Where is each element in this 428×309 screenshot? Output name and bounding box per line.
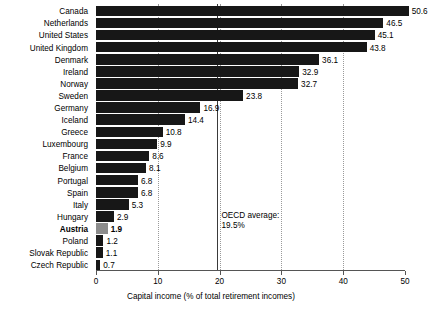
bar-value-label: 8.1: [149, 164, 160, 173]
x-tick-label-40: 40: [339, 277, 348, 286]
bar-sweden: [96, 90, 243, 101]
x-tick-label-0: 0: [94, 277, 99, 286]
x-tick-label-50: 50: [400, 277, 409, 286]
category-label-luxembourg: Luxembourg: [42, 140, 88, 149]
bar-value-label: 16.9: [203, 104, 219, 113]
bar-greece: [96, 127, 163, 138]
bar-portugal: [96, 175, 138, 186]
bar-value-label: 1.2: [106, 237, 117, 246]
category-label-norway: Norway: [60, 79, 88, 88]
bar-value-label: 50.6: [412, 7, 428, 16]
category-label-row: Czech Republic: [0, 258, 92, 273]
x-tick-label-30: 30: [277, 277, 286, 286]
bar-value-label: 46.5: [386, 19, 402, 28]
bar-hungary: [96, 211, 114, 222]
oecd-average-annotation-line1: OECD average:: [222, 211, 280, 221]
bar-value-label: 8.6: [152, 152, 163, 161]
bar-value-label: 1.9: [111, 224, 122, 233]
bar-norway: [96, 78, 298, 89]
oecd-average-annotation: OECD average:19.5%: [222, 211, 280, 231]
x-tick-40: [343, 271, 344, 275]
plot-area: 50.646.545.143.836.132.932.723.816.914.4…: [96, 4, 405, 270]
bar-value-label: 32.7: [301, 79, 317, 88]
category-label-czech-republic: Czech Republic: [31, 261, 88, 270]
bar-value-label: 23.8: [246, 91, 262, 100]
bar-poland: [96, 235, 103, 246]
bar-value-label: 36.1: [322, 55, 338, 64]
category-label-netherlands: Netherlands: [44, 19, 88, 28]
bar-value-label: 1.1: [106, 249, 117, 258]
bar-austria: [96, 223, 108, 234]
category-label-united-kingdom: United Kingdom: [30, 43, 88, 52]
bar-value-label: 43.8: [370, 43, 386, 52]
category-label-france: France: [63, 152, 88, 161]
category-label-canada: Canada: [59, 7, 88, 16]
category-label-spain: Spain: [67, 188, 88, 197]
bar-spain: [96, 187, 138, 198]
x-tick-10: [158, 271, 159, 275]
category-label-sweden: Sweden: [58, 91, 88, 100]
category-label-germany: Germany: [54, 104, 88, 113]
x-axis-title: Capital income (% of total retirement in…: [0, 292, 422, 301]
bar-value-label: 0.7: [103, 261, 114, 270]
bar-value-label: 10.8: [166, 128, 182, 137]
bar-value-label: 32.9: [302, 67, 318, 76]
x-tick-20: [220, 271, 221, 275]
x-axis-line: [96, 270, 405, 271]
bar-italy: [96, 199, 129, 210]
category-label-iceland: Iceland: [62, 116, 88, 125]
x-tick-30: [281, 271, 282, 275]
category-label-austria: Austria: [60, 224, 88, 233]
bar-value-label: 5.3: [132, 200, 143, 209]
bar-value-label: 2.9: [117, 212, 128, 221]
bar-value-label: 14.4: [188, 116, 204, 125]
category-label-ireland: Ireland: [63, 67, 88, 76]
bar-germany: [96, 102, 200, 113]
category-label-hungary: Hungary: [57, 212, 88, 221]
x-tick-0: [96, 271, 97, 275]
x-tick-50: [405, 271, 406, 275]
bar-slovak-republic: [96, 247, 103, 258]
bar-czech-republic: [96, 260, 100, 271]
x-tick-label-10: 10: [153, 277, 162, 286]
bar-value-label: 6.8: [141, 188, 152, 197]
bar-iceland: [96, 114, 185, 125]
category-label-belgium: Belgium: [58, 164, 88, 173]
bar-ireland: [96, 66, 299, 77]
category-label-slovak-republic: Slovak Republic: [29, 249, 88, 258]
oecd-average-annotation-value: 19.5%: [222, 221, 280, 231]
x-tick-label-20: 20: [215, 277, 224, 286]
bar-france: [96, 151, 149, 162]
bar-value-label: 9.9: [160, 140, 171, 149]
bar-canada: [96, 6, 409, 17]
category-label-denmark: Denmark: [55, 55, 88, 64]
bar-value-label: 45.1: [378, 31, 394, 40]
bar-united-kingdom: [96, 42, 367, 53]
category-label-greece: Greece: [61, 128, 88, 137]
category-label-united-states: United States: [39, 31, 88, 40]
bar-value-label: 6.8: [141, 176, 152, 185]
bar-netherlands: [96, 18, 383, 29]
bar-denmark: [96, 54, 319, 65]
category-label-poland: Poland: [63, 237, 89, 246]
bar-belgium: [96, 163, 146, 174]
category-axis-labels: CanadaNetherlandsUnited StatesUnited Kin…: [0, 4, 92, 270]
category-label-portugal: Portugal: [58, 176, 89, 185]
bar-luxembourg: [96, 139, 157, 150]
bar-united-states: [96, 30, 375, 41]
category-label-italy: Italy: [73, 200, 88, 209]
